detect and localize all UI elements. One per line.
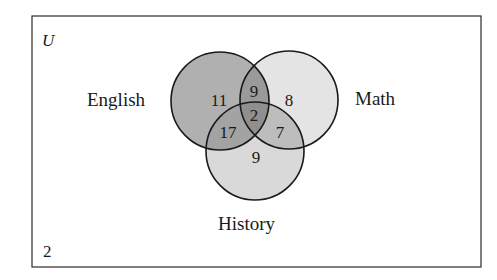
universe-label: U — [42, 31, 56, 50]
region-math-history: 7 — [276, 123, 285, 142]
math-label: Math — [355, 88, 396, 109]
history-label: History — [218, 213, 276, 234]
region-history-only: 9 — [252, 148, 261, 167]
venn-diagram: U English Math History 2 11 9 8 2 17 7 9 — [0, 0, 497, 280]
region-english-history: 17 — [220, 123, 238, 142]
english-label: English — [87, 89, 146, 110]
region-math-only: 8 — [285, 91, 294, 110]
outside-count: 2 — [43, 242, 52, 261]
region-english-math: 9 — [250, 82, 259, 101]
region-english-only: 11 — [211, 91, 227, 110]
region-all-three: 2 — [250, 106, 259, 125]
